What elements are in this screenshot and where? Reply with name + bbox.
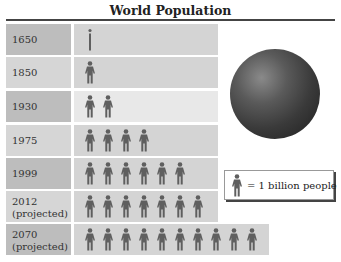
person-icon	[138, 162, 150, 185]
person-icon	[120, 162, 132, 185]
year-label: 1999	[12, 168, 37, 179]
person-icon	[84, 162, 96, 185]
person-icon	[120, 228, 132, 251]
row-label: 1975	[6, 125, 71, 156]
person-icon	[102, 95, 114, 118]
person-icon	[138, 228, 150, 251]
person-icon	[138, 129, 150, 152]
pictograph-row: 1850	[6, 57, 218, 88]
figure-bar	[74, 91, 218, 122]
person-icon	[231, 174, 243, 197]
person-icon	[84, 61, 96, 84]
row-label: 1850	[6, 57, 71, 88]
person-icon	[84, 195, 96, 218]
figure-bar	[74, 224, 269, 255]
person-icon	[174, 195, 186, 218]
pictograph-row: 2012(projected)	[6, 191, 218, 222]
person-icon	[102, 195, 114, 218]
pictograph-row: 1650	[6, 24, 218, 55]
person-icon	[246, 228, 258, 251]
pictograph-row: 1975	[6, 125, 218, 156]
half-person-icon	[84, 28, 96, 51]
row-label: 2012(projected)	[6, 191, 71, 222]
row-label: 2070(projected)	[6, 224, 71, 255]
legend-box: = 1 billion people	[224, 170, 334, 200]
person-icon	[192, 228, 204, 251]
legend-text: = 1 billion people	[247, 180, 337, 191]
year-label: 1930	[12, 101, 37, 112]
person-icon	[156, 162, 168, 185]
person-icon	[84, 129, 96, 152]
person-icon	[210, 228, 222, 251]
person-icon	[102, 162, 114, 185]
chart-title: World Population	[0, 3, 341, 18]
pictograph-row: 2070(projected)	[6, 224, 269, 255]
globe-image	[230, 49, 320, 139]
projected-label: (projected)	[12, 241, 68, 252]
title-rule	[6, 19, 335, 21]
person-icon	[192, 195, 204, 218]
person-icon	[138, 195, 150, 218]
person-icon	[156, 195, 168, 218]
year-label: 1650	[12, 34, 37, 45]
person-icon	[84, 95, 96, 118]
figure-bar	[74, 158, 218, 189]
person-icon	[120, 195, 132, 218]
row-label: 1930	[6, 91, 71, 122]
person-icon	[156, 228, 168, 251]
figure-bar	[74, 125, 218, 156]
person-icon	[120, 129, 132, 152]
figure-bar	[74, 57, 218, 88]
pictograph-row: 1930	[6, 91, 218, 122]
person-icon	[174, 228, 186, 251]
pictograph-row: 1999	[6, 158, 218, 189]
projected-label: (projected)	[12, 208, 68, 219]
person-icon	[102, 129, 114, 152]
year-label: 2012	[12, 196, 37, 207]
person-icon	[84, 228, 96, 251]
person-icon	[174, 162, 186, 185]
row-label: 1650	[6, 24, 71, 55]
person-icon	[102, 228, 114, 251]
figure-bar	[74, 24, 218, 55]
year-label: 1975	[12, 135, 37, 146]
figure-bar	[74, 191, 218, 222]
person-icon	[228, 228, 240, 251]
year-label: 1850	[12, 67, 37, 78]
row-label: 1999	[6, 158, 71, 189]
year-label: 2070	[12, 229, 37, 240]
